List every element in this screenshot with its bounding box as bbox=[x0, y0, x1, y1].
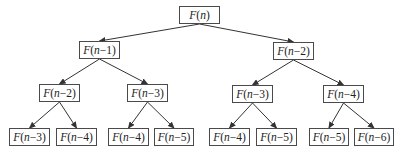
tree-leaf: F(n−5) bbox=[256, 128, 297, 146]
tree-edge-arrow bbox=[294, 60, 344, 85]
tree-leaf: F(n−4) bbox=[56, 128, 97, 146]
tree-edge-arrow bbox=[30, 102, 60, 128]
node-label: F(n−5) bbox=[313, 131, 346, 143]
tree-edge-arrow bbox=[100, 24, 200, 41]
tree-node: F(n−3) bbox=[232, 85, 273, 103]
tree-leaf: F(n−5) bbox=[154, 128, 194, 146]
tree-leaf: F(n−4) bbox=[108, 128, 149, 146]
node-label: F(n−3) bbox=[236, 88, 269, 100]
node-label: F(n−4) bbox=[213, 131, 246, 143]
tree-edge-arrow bbox=[200, 24, 294, 42]
node-label: F(n−4) bbox=[327, 88, 360, 100]
node-label: F(n−3) bbox=[13, 131, 46, 143]
tree-edge-arrow bbox=[230, 103, 253, 128]
node-label: F(n−2) bbox=[43, 87, 76, 99]
tree-node: F(n−3) bbox=[127, 84, 168, 102]
node-label: F(n−6) bbox=[358, 131, 391, 143]
tree-leaf: F(n−5) bbox=[309, 128, 349, 146]
tree-edge-arrow bbox=[253, 60, 294, 85]
tree-node: F(n−2) bbox=[273, 42, 314, 60]
node-label: F(n−4) bbox=[112, 131, 145, 143]
recursion-tree-diagram: F(n) F(n−1) F(n−2) F(n−2) F(n−3) F(n−3) … bbox=[0, 0, 403, 156]
tree-edge-arrow bbox=[344, 103, 375, 128]
tree-node: F(n−1) bbox=[79, 41, 120, 59]
tree-leaf: F(n−3) bbox=[9, 128, 50, 146]
tree-edge-arrow bbox=[129, 102, 148, 128]
tree-edge-arrow bbox=[148, 102, 175, 128]
node-label: F(n−2) bbox=[277, 45, 310, 57]
tree-leaf: F(n−6) bbox=[354, 128, 394, 146]
node-label: F(n−3) bbox=[131, 87, 164, 99]
tree-node: F(n−4) bbox=[323, 85, 364, 103]
tree-node-root: F(n) bbox=[179, 6, 220, 24]
node-label: F(n−5) bbox=[260, 131, 293, 143]
tree-edge-arrow bbox=[60, 102, 77, 128]
tree-edge-arrow bbox=[100, 59, 148, 84]
tree-node: F(n−2) bbox=[39, 84, 80, 102]
node-label: F(n) bbox=[189, 9, 209, 21]
tree-edge-arrow bbox=[329, 103, 344, 128]
node-label: F(n−5) bbox=[158, 131, 191, 143]
tree-edge-arrow bbox=[60, 59, 100, 84]
tree-edge-arrow bbox=[253, 103, 277, 128]
node-label: F(n−4) bbox=[60, 131, 93, 143]
node-label: F(n−1) bbox=[83, 44, 116, 56]
tree-leaf: F(n−4) bbox=[209, 128, 250, 146]
